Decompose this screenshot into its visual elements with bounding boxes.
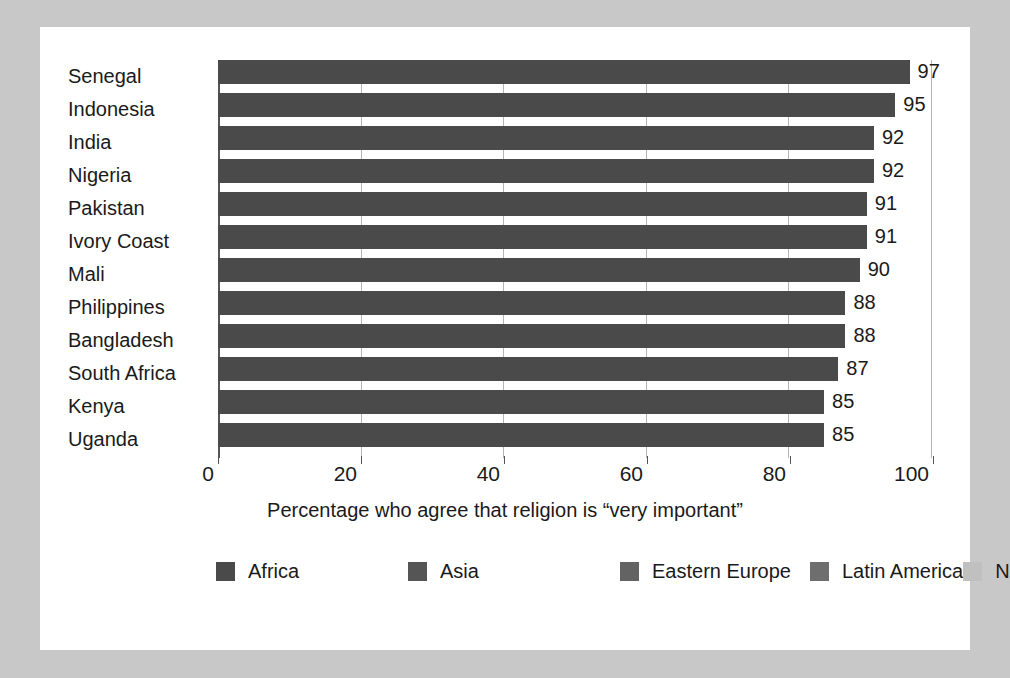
bar	[218, 390, 824, 414]
category-label-row: South Africa	[40, 357, 210, 390]
category-label: Kenya	[40, 395, 125, 418]
category-label-row: Indonesia	[40, 93, 210, 126]
bar-row: 87	[218, 357, 931, 390]
bar-value-label: 95	[903, 91, 925, 117]
category-label-row: Uganda	[40, 423, 210, 456]
bar-value-label: 92	[882, 157, 904, 183]
legend-label: Latin America	[842, 560, 963, 583]
bar-row: 95	[218, 93, 931, 126]
category-label-row: Ivory Coast	[40, 225, 210, 258]
bar-value-label: 85	[832, 388, 854, 414]
category-label-row: India	[40, 126, 210, 159]
bar	[218, 93, 895, 117]
legend-label: Eastern Europe	[652, 560, 791, 583]
x-axis-tick-label: 0	[202, 462, 218, 486]
bar-value-label: 90	[868, 256, 890, 282]
category-label: Uganda	[40, 428, 138, 451]
bar-row: 92	[218, 159, 931, 192]
bar-row: 91	[218, 192, 931, 225]
bar	[218, 126, 874, 150]
category-label-row: Mali	[40, 258, 210, 291]
legend-label: North America	[995, 560, 1010, 583]
bar-value-label: 92	[882, 124, 904, 150]
category-axis-labels: SenegalIndonesiaIndiaNigeriaPakistanIvor…	[40, 60, 210, 456]
category-label: Indonesia	[40, 98, 155, 121]
bar-value-label: 91	[875, 190, 897, 216]
x-axis-tick-mark	[933, 456, 934, 464]
category-label: Pakistan	[40, 197, 145, 220]
bar-row: 91	[218, 225, 931, 258]
category-label-row: Philippines	[40, 291, 210, 324]
plot-area: 979592929191908888878585	[218, 60, 931, 456]
x-axis: 020406080100	[218, 456, 933, 496]
legend-item[interactable]: Latin America	[810, 555, 963, 588]
category-label-row: Nigeria	[40, 159, 210, 192]
bar-rows: 979592929191908888878585	[218, 60, 931, 456]
bar-row: 88	[218, 324, 931, 357]
legend-swatch-icon	[408, 562, 427, 581]
x-axis-tick-label: 80	[763, 462, 790, 486]
bar-row: 85	[218, 423, 931, 456]
legend-item[interactable]: Eastern Europe	[620, 555, 810, 588]
category-label: South Africa	[40, 362, 176, 385]
x-axis-tick-mark	[647, 456, 648, 464]
legend-swatch-icon	[216, 562, 235, 581]
x-axis-tick-mark	[218, 456, 219, 464]
category-label-row: Senegal	[40, 60, 210, 93]
legend-item[interactable]: North America	[963, 555, 1010, 588]
bar	[218, 357, 838, 381]
bar-row: 85	[218, 390, 931, 423]
legend-item[interactable]: Asia	[408, 555, 620, 588]
category-label: Philippines	[40, 296, 165, 319]
bar-row: 97	[218, 60, 931, 93]
category-label: Bangladesh	[40, 329, 174, 352]
bar	[218, 60, 910, 84]
chart-figure: SenegalIndonesiaIndiaNigeriaPakistanIvor…	[0, 0, 1010, 678]
legend-swatch-icon	[620, 562, 639, 581]
bar	[218, 192, 867, 216]
category-label: Mali	[40, 263, 105, 286]
bar-row: 92	[218, 126, 931, 159]
chart-legend: AfricaAsiaEastern EuropeLatin AmericaNor…	[216, 555, 836, 588]
category-label-row: Kenya	[40, 390, 210, 423]
bar	[218, 324, 845, 348]
x-axis-title: Percentage who agree that religion is “v…	[40, 499, 970, 522]
bar-value-label: 87	[846, 355, 868, 381]
category-label-row: Pakistan	[40, 192, 210, 225]
x-axis-tick-mark	[790, 456, 791, 464]
gridline	[931, 60, 932, 458]
legend-label: Asia	[440, 560, 479, 583]
bar-row: 88	[218, 291, 931, 324]
bar	[218, 225, 867, 249]
bar	[218, 159, 874, 183]
bar-value-label: 88	[853, 322, 875, 348]
x-axis-tick-label: 40	[477, 462, 504, 486]
category-label-row: Bangladesh	[40, 324, 210, 357]
legend-swatch-icon	[810, 562, 829, 581]
x-axis-tick-label: 20	[334, 462, 361, 486]
x-axis-tick-mark	[361, 456, 362, 464]
bar-value-label: 85	[832, 421, 854, 447]
category-label: Senegal	[40, 65, 141, 88]
bar-value-label: 91	[875, 223, 897, 249]
x-axis-tick-mark	[504, 456, 505, 464]
category-label: Nigeria	[40, 164, 131, 187]
x-axis-tick-label: 100	[894, 462, 933, 486]
bar	[218, 423, 824, 447]
category-label: Ivory Coast	[40, 230, 169, 253]
chart-panel: SenegalIndonesiaIndiaNigeriaPakistanIvor…	[40, 27, 970, 650]
legend-item[interactable]: Africa	[216, 555, 408, 588]
legend-swatch-icon	[963, 562, 982, 581]
bar-row: 90	[218, 258, 931, 291]
bar	[218, 258, 860, 282]
category-label: India	[40, 131, 111, 154]
bar-value-label: 88	[853, 289, 875, 315]
bar	[218, 291, 845, 315]
x-axis-tick-label: 60	[620, 462, 647, 486]
legend-label: Africa	[248, 560, 299, 583]
bar-value-label: 97	[918, 58, 940, 84]
